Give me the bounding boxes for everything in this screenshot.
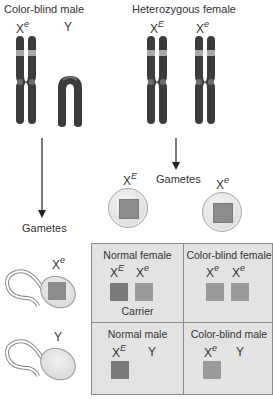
sperm-illustration xyxy=(0,258,90,398)
female-arrow-icon xyxy=(172,138,180,170)
cell-title: Normal female xyxy=(92,249,183,261)
sperm-y xyxy=(7,341,81,386)
punnett-square: Normal female XE Xe Carrier Color-blind … xyxy=(91,243,273,395)
dominant-square-icon xyxy=(111,361,129,379)
cell-allele: Y xyxy=(148,345,156,359)
cell-allele: Y xyxy=(236,345,244,359)
female-gametes-label: Gametes xyxy=(156,173,201,185)
dominant-square-icon xyxy=(110,283,128,301)
cell-allele: Xe xyxy=(136,264,149,280)
cell-title: Normal male xyxy=(92,328,183,340)
cell-allele: Xe xyxy=(232,264,245,280)
sperm-y-label: Y xyxy=(54,330,62,344)
recessive-square-icon xyxy=(206,283,224,301)
cell-title: Color-blind male xyxy=(184,328,273,340)
cell-allele: Xe xyxy=(206,264,219,280)
cell-title: Color-blind female xyxy=(184,249,273,261)
recessive-square-icon xyxy=(231,283,249,301)
cell-colorblind-male: Color-blind male Xe Y xyxy=(184,323,273,395)
egg-xE xyxy=(108,188,148,228)
cell-normal-female: Normal female XE Xe Carrier xyxy=(92,244,183,322)
cell-normal-male: Normal male XE Y xyxy=(92,323,183,395)
cell-allele: XE xyxy=(112,344,126,360)
recessive-square-icon xyxy=(203,361,221,379)
male-gametes-label: Gametes xyxy=(22,222,67,234)
male-arrow-icon xyxy=(38,138,46,218)
carrier-label: Carrier xyxy=(92,305,183,317)
cell-allele: Xe xyxy=(204,344,217,360)
cell-colorblind-female: Color-blind female Xe Xe xyxy=(184,244,273,322)
recessive-square-icon xyxy=(135,283,153,301)
cell-allele: XE xyxy=(110,264,124,280)
egg-xe xyxy=(202,192,242,232)
egg-xe-label: Xe xyxy=(216,176,229,192)
chromosome-square-icon xyxy=(213,203,233,223)
sperm-xe xyxy=(7,270,81,314)
egg-xE-label: XE xyxy=(123,172,137,188)
chromosome-square-icon xyxy=(119,199,139,219)
